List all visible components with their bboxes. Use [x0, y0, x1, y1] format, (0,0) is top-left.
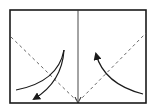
right-fold-arrow-icon	[96, 54, 143, 94]
fold-diagram	[0, 0, 151, 111]
valley-fold-left	[11, 37, 78, 102]
left-fold-arrow-icon	[34, 50, 64, 99]
left-fold-curve	[16, 50, 64, 90]
